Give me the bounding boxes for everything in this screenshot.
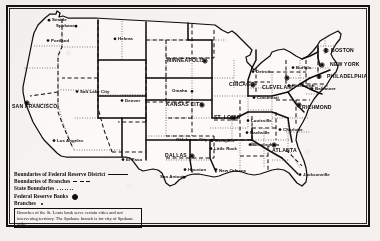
- reserve-bank-city-label: CLEVELAND: [262, 84, 295, 90]
- branch-city-marker: [210, 147, 213, 150]
- branch-city-marker: [292, 66, 295, 69]
- branch-city-label: Los Angeles: [57, 138, 84, 143]
- branch-city-label: Denver: [125, 98, 140, 103]
- branch-city-label: Little Rock: [214, 146, 238, 151]
- reserve-bank-city-label: MINNEAPOLIS: [167, 57, 205, 63]
- reserve-bank-city-label: DALLAS: [165, 152, 187, 158]
- legend-row-branch-dots: Branches: [14, 200, 164, 207]
- branch-city-label: Buffalo: [296, 65, 312, 70]
- federal-reserve-district-map: SeattleSpokanePortlandHelenaSalt Lake Ci…: [0, 0, 380, 241]
- branch-city-label: Omaha: [172, 88, 188, 93]
- reserve-bank-marker-icon: [318, 75, 320, 77]
- branch-city-label: Nashville: [250, 130, 270, 135]
- branch-city-label: Louisville: [251, 118, 272, 123]
- reserve-bank-city-label: PHILADELPHIA: [327, 73, 367, 79]
- branch-city-marker: [75, 25, 78, 28]
- branch-city-label: Jacksonville: [303, 172, 330, 177]
- branch-city-marker: [252, 70, 255, 73]
- reserve-bank-city-label: CHICAGO: [229, 81, 255, 87]
- branch-city-marker: [122, 158, 125, 161]
- branch-city-marker: [253, 96, 256, 99]
- reserve-bank-city-label: KANSAS CITY: [166, 101, 203, 107]
- reserve-bank-marker-icon: [321, 64, 323, 66]
- legend-label-banks: Federal Reserve Banks: [14, 193, 68, 199]
- branch-city-label: Portland: [51, 38, 70, 43]
- legend-label-district: Boundaries of Federal Reserve District: [14, 171, 105, 177]
- reserve-bank-city-label: BOSTON: [331, 47, 354, 53]
- reserve-bank-marker-icon: [325, 49, 327, 51]
- branch-city-marker: [249, 143, 252, 146]
- reserve-bank-city-label: NEW YORK: [330, 61, 360, 67]
- branch-city-marker: [279, 128, 282, 131]
- reserve-bank-city-label: SAN FRANCISCO: [12, 103, 57, 109]
- legend-swatch-branch-line: [73, 178, 95, 184]
- branch-city-marker: [53, 139, 56, 142]
- legend-footnote-text: Branches of the St. Louis bank serve cer…: [17, 210, 139, 226]
- branch-city-label: Spokane: [56, 23, 75, 28]
- branch-city-marker: [121, 99, 124, 102]
- legend-label-states: State Boundaries: [14, 185, 54, 191]
- branch-city-label: Houston: [188, 167, 206, 172]
- branch-city-marker: [184, 168, 187, 171]
- reserve-bank-city-label: ATLANTA: [272, 147, 297, 153]
- legend-row-branches: Boundaries of Branches: [14, 177, 164, 184]
- branch-city-label: Helena: [118, 36, 133, 41]
- reserve-bank-marker-icon: [191, 155, 193, 157]
- branch-city-label: New Orleans: [219, 168, 247, 173]
- reserve-bank-city-label: RICHMOND: [302, 104, 332, 110]
- branch-city-marker: [215, 168, 218, 171]
- legend-row-district: Boundaries of Federal Reserve District: [14, 170, 164, 177]
- branch-city-marker: [47, 39, 50, 42]
- branch-city-label: El Paso: [126, 157, 143, 162]
- legend-label-branch-dots: Branches: [14, 200, 36, 206]
- branch-city-marker: [211, 139, 214, 142]
- branch-city-marker: [76, 90, 79, 93]
- branch-city-label: Pittsburgh: [292, 83, 315, 88]
- legend-swatch-state-line: [57, 185, 79, 191]
- branch-city-label: Seattle: [52, 17, 67, 22]
- legend-row-states: State Boundaries: [14, 185, 164, 192]
- reserve-bank-city-label: ST. LOUIS: [214, 114, 241, 120]
- legend-footnote-box: Branches of the St. Louis bank serve cer…: [14, 208, 142, 228]
- branch-city-marker: [191, 90, 194, 93]
- map-legend: Boundaries of Federal Reserve District B…: [14, 170, 164, 228]
- branch-city-label: Detroit: [256, 69, 271, 74]
- reserve-bank-marker-icon: [286, 77, 288, 79]
- branch-city-marker: [247, 119, 250, 122]
- branch-city-marker: [246, 131, 249, 134]
- legend-swatch-district-line: [108, 171, 130, 177]
- branch-city-marker: [114, 37, 117, 40]
- reserve-bank-marker-icon: [298, 104, 300, 106]
- branch-city-marker: [48, 19, 51, 22]
- branch-city-label: Oklahoma City: [176, 137, 208, 142]
- branch-city-marker: [299, 173, 302, 176]
- legend-label-branches: Boundaries of Branches: [14, 178, 70, 184]
- branch-city-marker: [311, 87, 314, 90]
- legend-row-banks: Federal Reserve Banks: [14, 192, 164, 199]
- branch-city-label: Baltimore: [315, 86, 336, 91]
- branch-city-label: Memphis: [215, 138, 235, 143]
- branch-city-label: Salt Lake City: [80, 89, 110, 94]
- branch-city-label: Charlotte: [283, 127, 303, 132]
- branch-city-label: Cincinnati: [257, 95, 279, 100]
- legend-swatch-branch-symbol-icon: [39, 200, 47, 206]
- reserve-bank-marker-icon: [273, 144, 275, 146]
- legend-swatch-bank-symbol-icon: [71, 193, 80, 199]
